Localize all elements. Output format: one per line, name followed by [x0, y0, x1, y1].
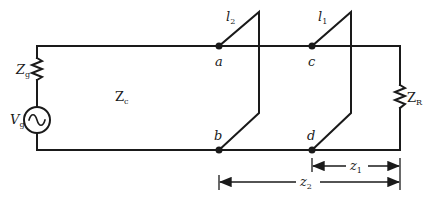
zr-resistor-icon — [395, 85, 405, 108]
zr-label: ZR — [407, 91, 422, 107]
circuit-drawing — [0, 0, 431, 200]
zg-label: Zg — [16, 63, 30, 79]
l2-label: l2 — [226, 10, 235, 26]
z2-label: z2 — [300, 175, 312, 191]
node-a-dot — [216, 43, 223, 50]
node-d-label: d — [307, 129, 315, 142]
source-branch — [24, 46, 50, 150]
double-stub-circuit-diagram: Zg Vg Zc ZR l2 l1 a c b d z1 z2 — [0, 0, 431, 200]
load-branch — [395, 46, 405, 150]
node-c-dot — [309, 43, 316, 50]
zg-resistor-icon — [32, 58, 42, 80]
l1-label: l1 — [318, 10, 327, 26]
z1-label: z1 — [350, 159, 362, 175]
stub-2 — [219, 12, 259, 150]
node-d-dot — [309, 147, 316, 154]
node-c-label: c — [308, 55, 315, 68]
node-b-dot — [216, 147, 223, 154]
node-b-label: b — [214, 129, 222, 142]
vg-label: Vg — [10, 113, 25, 129]
node-a-label: a — [215, 55, 223, 68]
zc-label: Zc — [115, 90, 129, 106]
stub-1 — [312, 12, 351, 150]
